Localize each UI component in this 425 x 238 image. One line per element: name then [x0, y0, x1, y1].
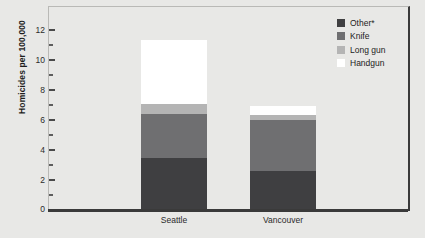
y-tick-4 — [49, 149, 55, 151]
y-tick-label-4: 4 — [19, 145, 45, 155]
y-tick-2 — [49, 179, 55, 181]
bar-vancouver-segment-handgun[interactable] — [250, 106, 316, 115]
legend-swatch-long-gun-icon — [337, 46, 345, 54]
legend-item-handgun[interactable]: Handgun — [337, 57, 385, 71]
bar-seattle-segment-long-gun[interactable] — [141, 104, 207, 115]
legend-item-knife[interactable]: Knife — [337, 30, 385, 44]
legend-item-other[interactable]: Other* — [337, 16, 385, 30]
y-tick-minor-1 — [49, 194, 53, 196]
legend-label-other: Other* — [350, 18, 375, 28]
bar-vancouver-segment-knife[interactable] — [250, 120, 316, 171]
legend-item-long-gun[interactable]: Long gun — [337, 43, 385, 57]
y-tick-label-10: 10 — [19, 55, 45, 65]
bar-vancouver[interactable] — [250, 106, 316, 209]
y-tick-6 — [49, 119, 55, 121]
bar-seattle-segment-knife[interactable] — [141, 114, 207, 158]
y-tick-8 — [49, 89, 55, 91]
legend-swatch-other-icon — [337, 19, 345, 27]
legend-label-long-gun: Long gun — [350, 45, 385, 55]
y-tick-minor-11 — [49, 44, 53, 46]
bar-seattle-segment-handgun[interactable] — [141, 40, 207, 104]
legend-label-knife: Knife — [350, 31, 369, 41]
bar-vancouver-segment-other[interactable] — [250, 171, 316, 209]
y-tick-10 — [49, 59, 55, 61]
legend-label-handgun: Handgun — [350, 58, 385, 68]
y-tick-minor-7 — [49, 104, 53, 106]
x-axis-baseline — [48, 209, 408, 212]
legend: Other* Knife Long gun Handgun — [337, 16, 385, 70]
y-tick-label-2: 2 — [19, 175, 45, 185]
legend-swatch-handgun-icon — [337, 59, 345, 67]
bar-seattle[interactable] — [141, 40, 207, 209]
y-tick-label-6: 6 — [19, 115, 45, 125]
chart-figure: Homicides per 100,000 12 10 8 6 4 2 0 Se… — [0, 0, 425, 238]
x-tick-label-seattle: Seattle — [119, 215, 229, 225]
y-tick-minor-3 — [49, 164, 53, 166]
legend-swatch-knife-icon — [337, 32, 345, 40]
y-tick-minor-5 — [49, 134, 53, 136]
y-tick-label-0: 0 — [19, 204, 45, 214]
y-tick-label-8: 8 — [19, 85, 45, 95]
bar-seattle-segment-other[interactable] — [141, 158, 207, 209]
y-tick-label-12: 12 — [19, 25, 45, 35]
y-tick-minor-9 — [49, 74, 53, 76]
x-tick-label-vancouver: Vancouver — [228, 215, 338, 225]
y-tick-12 — [49, 29, 55, 31]
